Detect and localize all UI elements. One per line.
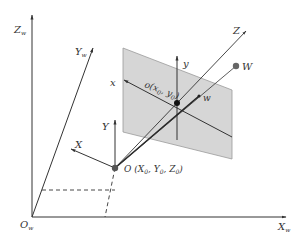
camera-geometry-diagram: Zw Yw Xw Ow Z Y X O (X0, Y0, Z0) x y o(x… [0, 0, 303, 247]
camera-x-label: X [74, 139, 83, 150]
world-y-label: Yw [75, 46, 88, 58]
image-y-label: y [182, 58, 189, 69]
image-x-label: x [110, 77, 116, 88]
camera-x-axis [71, 149, 115, 168]
world-x-label: Xw [277, 221, 291, 233]
image-point-label: w [203, 93, 211, 103]
camera-z-label: Z [232, 25, 241, 36]
world-point-label: W [242, 61, 253, 72]
image-point-w [198, 95, 201, 98]
world-y-axis [32, 48, 93, 217]
dashed-vertical-projection [105, 168, 115, 217]
camera-origin-point [112, 165, 118, 171]
camera-origin-label: O (X0, Y0, Z0) [124, 164, 183, 175]
camera-y-label: Y [102, 121, 110, 132]
world-origin-label: Ow [20, 219, 34, 231]
world-point-W [233, 63, 239, 69]
world-z-label: Zw [13, 24, 27, 36]
